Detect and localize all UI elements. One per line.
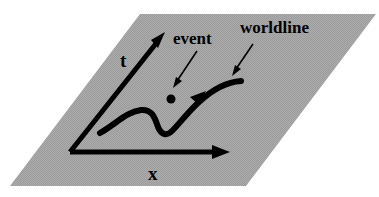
time-axis-label: t [120, 50, 127, 71]
event-point [167, 95, 176, 104]
worldline-label: worldline [240, 18, 309, 37]
space-axis-label: x [148, 163, 158, 184]
event-label: event [173, 29, 212, 48]
spacetime-diagram-canvas: t x event worldline [0, 0, 379, 197]
spacetime-diagram: t x event worldline [0, 0, 379, 197]
